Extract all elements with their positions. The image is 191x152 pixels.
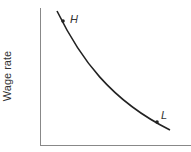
point-l-label: L [161, 109, 167, 121]
demand-curve [57, 11, 170, 130]
chart-plot: H L [0, 0, 191, 152]
chart: H L Wage rate [0, 0, 191, 152]
y-axis-label: Wage rate [1, 51, 13, 101]
point-h-marker [61, 19, 65, 23]
point-l-marker [155, 120, 159, 124]
point-h-label: H [70, 13, 78, 25]
